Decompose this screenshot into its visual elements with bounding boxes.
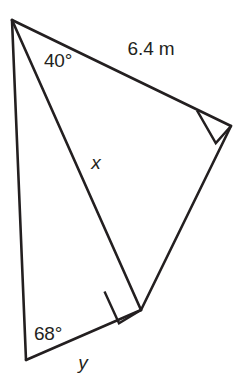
geometry-diagram: 40° 6.4 m x 68° y [0,0,239,384]
angle-label-40-degrees: 40° [44,51,72,70]
side-label-y: y [78,353,88,372]
side-label-6-4-m: 6.4 m [127,39,174,58]
segment-shared-diagonal [12,20,141,310]
segment-right-side [141,126,231,310]
side-label-x: x [91,153,101,172]
angle-label-68-degrees: 68° [34,324,62,343]
segment-left-side [12,20,26,360]
